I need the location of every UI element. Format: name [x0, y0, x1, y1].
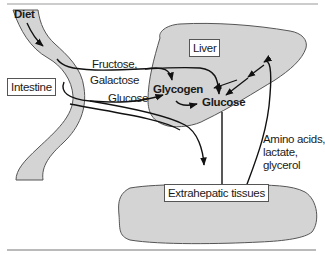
galactose-label: Galactose: [90, 74, 139, 87]
diet-label: Diet: [14, 8, 35, 21]
lactate-label: lactate,: [263, 146, 298, 159]
intestine-label: Intestine: [7, 78, 56, 96]
glycerol-label: glycerol: [263, 159, 300, 172]
amino-acids-label: Amino acids,: [263, 133, 325, 146]
diagram-canvas: [0, 0, 325, 255]
liver-label: Liver: [189, 39, 220, 57]
glucose-path-label: Glucose: [108, 92, 148, 105]
glucose-liver-label: Glucose: [202, 96, 245, 109]
liver-shape: [148, 23, 306, 126]
extrahepatic-label: Extrahepatic tissues: [164, 184, 269, 202]
glycogen-label: Glycogen: [153, 83, 203, 96]
fructose-label: Fructose,: [92, 58, 137, 71]
